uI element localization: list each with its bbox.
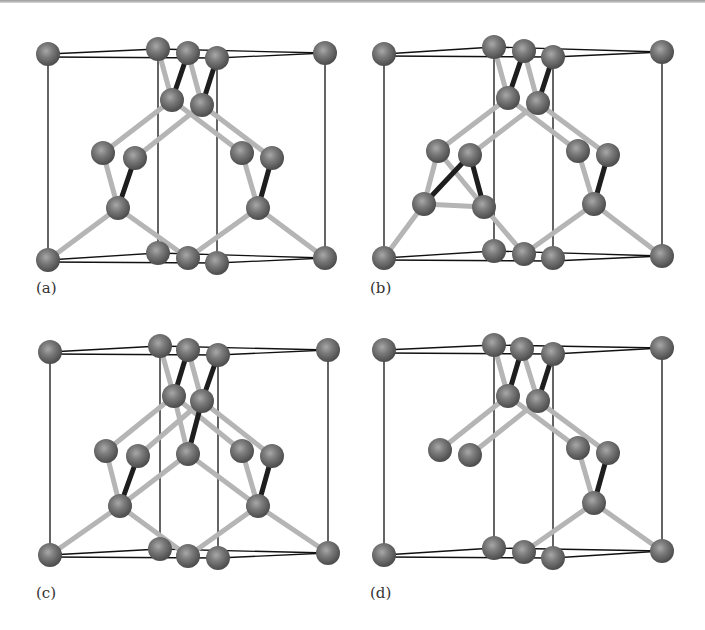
panel-label-d: (d) <box>370 584 391 602</box>
crystal-structure-figure <box>0 0 705 630</box>
panel-d <box>372 333 674 570</box>
panel-a <box>36 37 337 275</box>
panel-label-a: (a) <box>36 279 57 297</box>
panel-c <box>38 334 340 570</box>
panel-label-c: (c) <box>36 584 56 602</box>
bonds-light <box>384 47 662 258</box>
bonds-dark <box>508 349 608 503</box>
bonds-dark <box>424 51 608 207</box>
unit-cell-edges <box>384 345 662 558</box>
panel-label-b: (b) <box>370 279 391 297</box>
unit-cell-edges <box>384 47 662 261</box>
atoms <box>372 333 674 570</box>
panel-b <box>372 35 674 270</box>
atoms <box>372 35 674 270</box>
atoms <box>36 37 337 275</box>
